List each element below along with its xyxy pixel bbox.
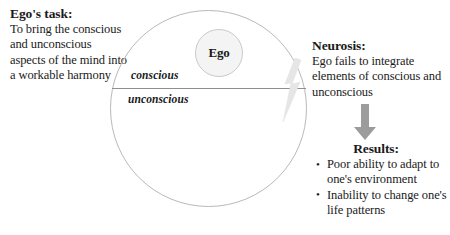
ego-task-block: Ego's task: To bring the conscious and u… (10, 6, 128, 84)
conscious-unconscious-divider (112, 88, 306, 89)
results-list: Poor ability to adapt to one's environme… (304, 157, 448, 219)
lightning-bolt-icon (281, 58, 303, 122)
list-item: Poor ability to adapt to one's environme… (318, 157, 448, 188)
ego-circle-label: Ego (208, 45, 229, 61)
ego-task-heading: Ego's task: (10, 6, 128, 22)
neurosis-block: Neurosis: Ego fails to integrate element… (312, 38, 448, 100)
ego-task-body: To bring the conscious and unconscious a… (10, 22, 128, 84)
ego-circle: Ego (195, 29, 243, 77)
neurosis-body: Ego fails to integrate elements of consc… (312, 54, 448, 100)
results-block: Results: Poor ability to adapt to one's … (304, 140, 448, 219)
unconscious-label: unconscious (128, 93, 189, 105)
down-arrow-icon (352, 104, 378, 140)
list-item: Inability to change one's life patterns (318, 188, 448, 219)
diagram-canvas: Ego's task: To bring the conscious and u… (0, 0, 450, 235)
results-heading: Results: (304, 140, 448, 157)
neurosis-heading: Neurosis: (312, 38, 448, 54)
conscious-label: conscious (131, 69, 179, 81)
